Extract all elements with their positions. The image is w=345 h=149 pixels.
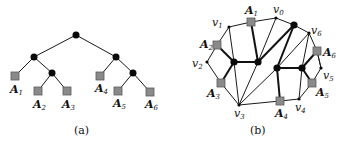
tree-internal-node [130,70,137,77]
vertex-v1 [227,25,230,28]
graph-internal-node [254,58,261,65]
label-v1: v1 [212,16,223,30]
tree-root-node [73,32,80,39]
bold-edge [277,68,280,101]
label-v4: v4 [295,101,306,115]
tree-edge [76,35,116,57]
label-a5: A5 [112,97,127,111]
graph-leaf-a5 [308,79,316,87]
graph-internal-node [230,58,237,65]
graph-edge [239,62,258,105]
outer-boundary [207,18,321,105]
graph-leaf-a2 [213,41,221,49]
graph-leaf-a1 [247,18,255,26]
tree-internal-node [49,70,56,77]
graph-label-a2: A2 [199,38,214,52]
graph-leaf-a3 [217,79,225,87]
graph-edge [239,68,277,105]
leaf-a3 [63,87,71,95]
vertex-v0 [274,16,277,19]
leaf-a2 [34,87,42,95]
vertex-v2 [205,60,208,63]
graph-edge [299,68,302,99]
graph-label-a6: A6 [322,46,337,60]
label-a6: A6 [144,98,159,112]
tree-internal-node [31,54,38,61]
leaf-a5 [114,87,122,95]
label-v3: v3 [234,107,245,121]
panel-b-graph: A1 A2 A3 A4 A5 A6 v0 v1 v2 v3 v4 v5 v6 (… [192,3,337,137]
tree-edge [34,35,76,57]
graph-leaf-a6 [313,47,321,55]
tree-internal-node [113,54,120,61]
label-v2: v2 [192,57,203,71]
tree-edge [116,57,133,73]
graph-edge [234,62,239,105]
bold-edge [258,25,294,62]
bold-edge [277,25,294,68]
label-v0: v0 [273,3,284,17]
graph-internal-node [290,21,297,28]
leaf-a1 [11,72,19,80]
label-v5: v5 [323,69,334,83]
caption-b: (b) [250,124,266,137]
label-a3: A3 [61,98,76,112]
graph-internal-node [298,64,305,71]
figure-canvas: A1 A2 A3 A4 A5 A6 (a) [0,0,345,149]
label-a1: A1 [9,83,23,97]
graph-internal-node [273,64,280,71]
panel-a-tree: A1 A2 A3 A4 A5 A6 (a) [9,32,159,138]
graph-edge [258,18,276,62]
tree-edge [34,57,52,73]
caption-a: (a) [74,124,89,137]
label-a4: A4 [94,82,108,96]
graph-label-a1: A1 [244,4,258,18]
graph-label-a3: A3 [206,87,221,101]
leaf-a6 [146,88,154,96]
graph-label-a5: A5 [315,86,330,100]
bold-edge [251,22,258,62]
label-v6: v6 [311,24,322,38]
graph-label-a4: A4 [274,107,288,121]
label-a2: A2 [32,98,47,112]
leaf-a4 [96,72,104,80]
graph-leaf-a4 [276,97,284,105]
